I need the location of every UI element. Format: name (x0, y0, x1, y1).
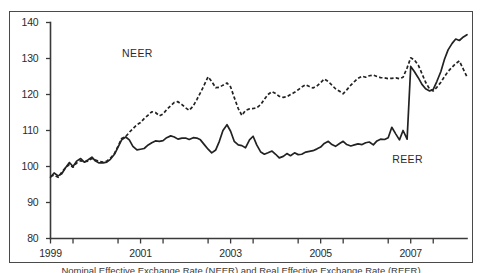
x-tick-label: 1999 (29, 247, 73, 259)
x-tick-label: 2005 (299, 247, 343, 259)
y-tick-label: 80 (13, 232, 39, 244)
y-tick-label: 100 (13, 160, 39, 172)
chart-plot-svg (0, 0, 483, 273)
x-tick-label: 2007 (389, 247, 433, 259)
y-tick-label: 90 (13, 196, 39, 208)
y-tick-label: 110 (13, 124, 39, 136)
x-tick-label: 2001 (119, 247, 163, 259)
series-label-neer: NEER (122, 47, 153, 59)
x-tick-label: 2003 (209, 247, 253, 259)
y-tick-label: 130 (13, 52, 39, 64)
y-tick-label: 120 (13, 88, 39, 100)
figure-caption: Nominal Effective Exchange Rate (NEER) a… (9, 265, 473, 273)
y-tick-label: 140 (13, 16, 39, 28)
series-label-reer: REER (392, 153, 423, 165)
chart-figure: 8090100110120130140 19992001200320052007… (0, 0, 483, 273)
